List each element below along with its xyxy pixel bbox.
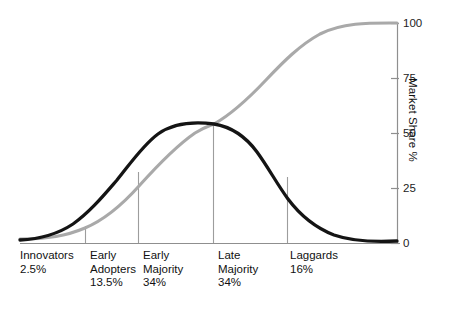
segment-label-late-majority: Late Majority 34% <box>218 249 258 290</box>
segment-name: Laggards <box>290 249 338 263</box>
segment-label-innovators: Innovators 2.5% <box>20 249 74 276</box>
segment-name-line2: Adopters <box>90 263 136 277</box>
segment-label-laggards: Laggards 16% <box>290 249 338 276</box>
segment-label-early-majority: Early Majority 34% <box>143 249 183 290</box>
segment-percent: 2.5% <box>20 263 74 277</box>
chart-canvas: 100 75 50 25 0 Market Share % Innovators… <box>0 0 453 309</box>
segment-label-early-adopters: Early Adopters 13.5% <box>90 249 136 290</box>
segment-percent: 34% <box>218 276 258 290</box>
y-tick-label-0: 0 <box>403 238 409 250</box>
segment-name: Early <box>143 249 183 263</box>
y-tick-label-100: 100 <box>403 18 422 30</box>
cumulative-s-curve <box>20 23 397 239</box>
segment-percent: 16% <box>290 263 338 277</box>
y-axis-title: Market Share % <box>407 78 419 198</box>
segment-name: Early <box>90 249 136 263</box>
segment-percent: 34% <box>143 276 183 290</box>
adopter-distribution-curve <box>20 123 397 242</box>
segment-percent: 13.5% <box>90 276 136 290</box>
segment-name: Innovators <box>20 249 74 263</box>
segment-name-line2: Majority <box>143 263 183 277</box>
segment-name: Late <box>218 249 258 263</box>
segment-name-line2: Majority <box>218 263 258 277</box>
